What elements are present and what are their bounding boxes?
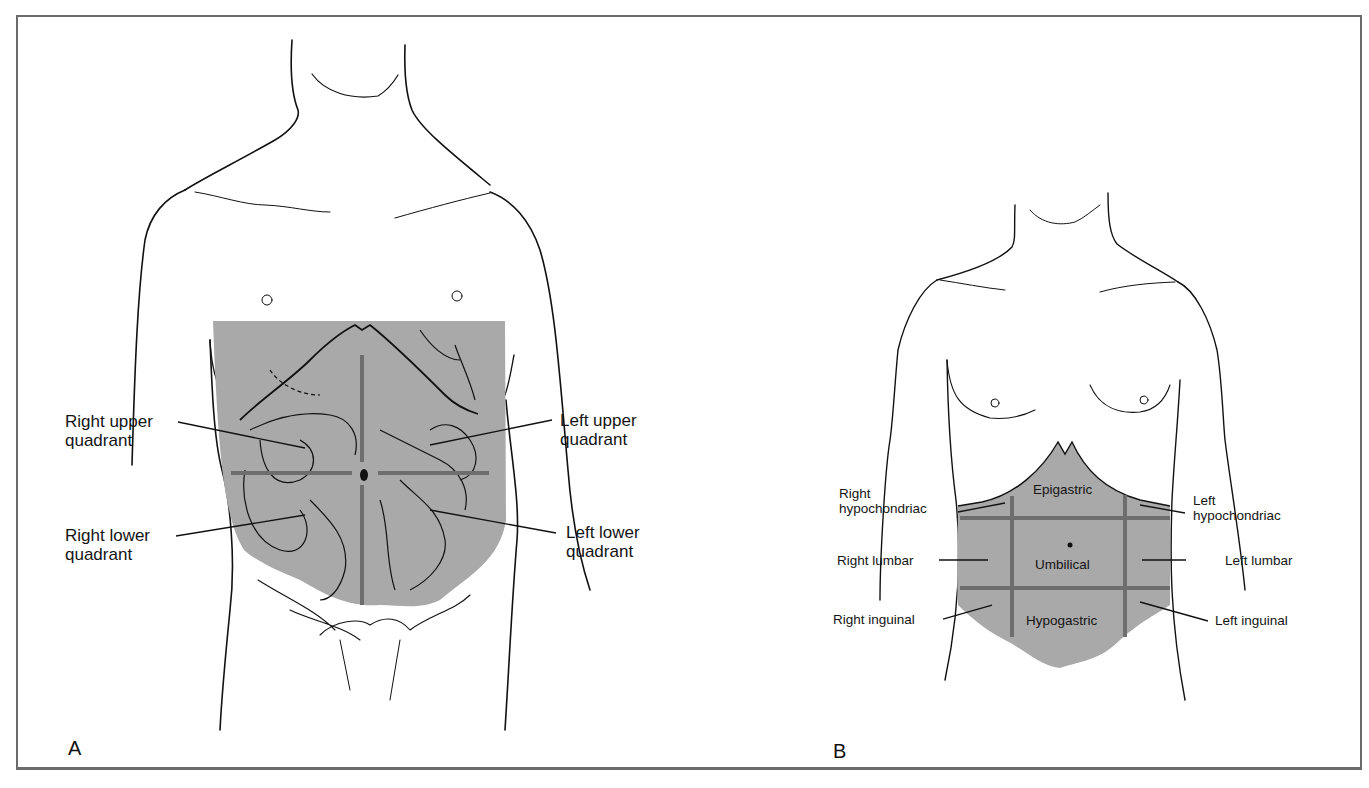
panel-a-letter: A [68, 737, 81, 760]
label-hypogastric: Hypogastric [1026, 613, 1097, 628]
label-right-lower-quadrant: Right lower quadrant [65, 526, 150, 564]
label-right-hypochondriac: Right hypochondriac [839, 486, 927, 516]
label-left-lower-quadrant: Left lower quadrant [566, 523, 640, 561]
label-right-upper-quadrant: Right upper quadrant [65, 412, 153, 450]
label-left-inguinal: Left inguinal [1215, 613, 1288, 628]
navel-icon [360, 469, 368, 481]
label-left-hypochondriac: Left hypochondriac [1193, 493, 1281, 523]
panel-b-letter: B [833, 740, 846, 763]
label-left-upper-quadrant: Left upper quadrant [560, 411, 637, 449]
anatomy-illustration [0, 0, 1369, 788]
navel-icon [1068, 543, 1073, 548]
label-left-lumbar: Left lumbar [1225, 553, 1293, 568]
label-right-inguinal: Right inguinal [833, 612, 915, 627]
panel-b-abdomen-shading [957, 442, 1170, 668]
label-epigastric: Epigastric [1033, 482, 1092, 497]
label-umbilical: Umbilical [1035, 557, 1090, 572]
label-right-lumbar: Right lumbar [837, 553, 914, 568]
